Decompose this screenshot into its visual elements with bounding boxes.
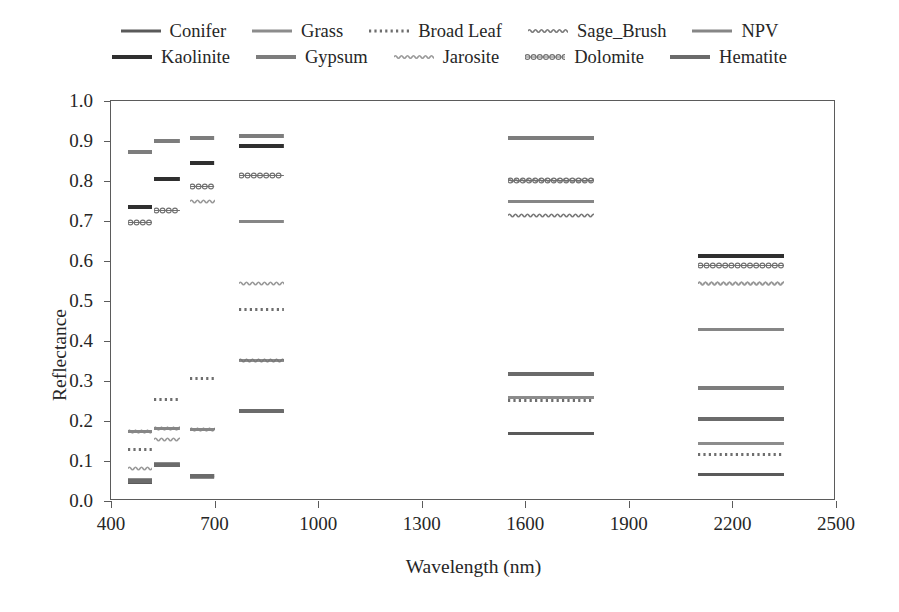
data-segment (239, 407, 284, 415)
data-segment (239, 142, 284, 150)
legend-item-broad-leaf[interactable]: Broad Leaf (369, 22, 502, 40)
data-segment (190, 472, 214, 480)
y-axis-tick-label: 0.3 (33, 370, 93, 392)
legend-label: NPV (741, 22, 778, 40)
legend-swatch-icon (369, 24, 409, 38)
y-axis-tick-label: 0.0 (33, 490, 93, 512)
legend-item-jarosite[interactable]: Jarosite (394, 48, 500, 66)
y-axis-tick-label: 0.6 (33, 250, 93, 272)
data-segment (508, 212, 594, 219)
y-axis-tick (104, 101, 111, 102)
x-axis-tick-label: 2200 (692, 513, 772, 535)
data-segment (508, 430, 594, 437)
y-axis-tick (104, 421, 111, 422)
legend-item-dolomite[interactable]: Dolomite (525, 48, 644, 66)
data-segment (698, 440, 784, 447)
legend-item-hematite[interactable]: Hematite (670, 48, 787, 66)
y-axis-tick-label: 0.7 (33, 210, 93, 232)
legend-item-conifer[interactable]: Conifer (121, 22, 227, 40)
legend-label: Dolomite (574, 48, 644, 66)
data-segment (154, 207, 180, 214)
data-segment (128, 219, 152, 226)
y-axis-tick (104, 221, 111, 222)
data-segment (508, 397, 594, 404)
legend-swatch-icon (256, 50, 296, 64)
plot-area: Reflectance Wavelength (nm) 0.00.10.20.3… (110, 100, 835, 500)
x-axis-title: Wavelength (nm) (111, 556, 836, 578)
y-axis-tick (104, 381, 111, 382)
y-axis-tick-label: 0.4 (33, 330, 93, 352)
data-segment (190, 159, 214, 167)
data-segment (128, 203, 152, 211)
data-segment (698, 252, 784, 260)
x-axis-tick (422, 501, 423, 508)
y-axis-tick-label: 0.5 (33, 290, 93, 312)
y-axis-tick-label: 0.1 (33, 450, 93, 472)
data-segment (128, 148, 152, 156)
data-segment (190, 198, 214, 205)
data-segment (154, 175, 180, 183)
data-segment (698, 415, 784, 423)
data-segment (239, 280, 284, 287)
x-axis-tick (111, 501, 112, 508)
data-segment (190, 426, 214, 433)
data-segment (128, 477, 152, 485)
legend-label: Grass (301, 22, 343, 40)
data-segment (508, 370, 594, 378)
legend-swatch-icon (525, 50, 565, 64)
legend-swatch-icon (528, 24, 568, 38)
y-axis-tick (104, 461, 111, 462)
legend-swatch-icon (692, 24, 732, 38)
legend-item-npv[interactable]: NPV (692, 22, 778, 40)
legend-label: Kaolinite (161, 48, 230, 66)
y-axis-tick-label: 0.8 (33, 170, 93, 192)
data-segment (154, 137, 180, 145)
y-axis-tick-label: 0.9 (33, 130, 93, 152)
legend-row-2: KaoliniteGypsumJarositeDolomiteHematite (99, 48, 800, 66)
data-segment (508, 198, 594, 205)
y-axis-tick-label: 1.0 (33, 90, 93, 112)
data-segment (239, 172, 284, 179)
x-axis-tick (629, 501, 630, 508)
legend-label: Gypsum (305, 48, 368, 66)
legend-item-grass[interactable]: Grass (252, 22, 343, 40)
legend-swatch-icon (121, 24, 161, 38)
data-segment (698, 280, 784, 287)
y-axis-tick (104, 301, 111, 302)
y-axis-tick-label: 0.2 (33, 410, 93, 432)
y-axis-tick (104, 261, 111, 262)
legend-label: Sage_Brush (577, 22, 666, 40)
legend-label: Broad Leaf (418, 22, 502, 40)
x-axis-tick (318, 501, 319, 508)
data-segment (154, 461, 180, 469)
data-segment (698, 326, 784, 333)
spectral-reflectance-figure: ConiferGrassBroad LeafSage_BrushNPVKaoli… (0, 0, 899, 612)
data-segment (698, 384, 784, 392)
data-segment (239, 306, 284, 313)
legend-item-kaolinite[interactable]: Kaolinite (112, 48, 230, 66)
legend-label: Hematite (719, 48, 787, 66)
legend-label: Jarosite (443, 48, 500, 66)
x-axis-tick-label: 1000 (278, 513, 358, 535)
legend-swatch-icon (112, 50, 152, 64)
plot-data-layer (111, 101, 834, 499)
data-segment (239, 218, 284, 225)
data-segment (128, 465, 152, 472)
legend-item-gypsum[interactable]: Gypsum (256, 48, 368, 66)
data-segment (239, 132, 284, 140)
data-segment (698, 262, 784, 269)
x-axis-tick (732, 501, 733, 508)
data-segment (190, 375, 214, 382)
data-segment (508, 134, 594, 142)
legend-swatch-icon (252, 24, 292, 38)
legend-item-sage-brush[interactable]: Sage_Brush (528, 22, 666, 40)
legend-row-1: ConiferGrassBroad LeafSage_BrushNPV (108, 22, 792, 40)
x-axis-tick-label: 700 (175, 513, 255, 535)
y-axis-tick (104, 501, 111, 502)
x-axis-tick (836, 501, 837, 508)
y-axis-tick (104, 141, 111, 142)
data-segment (698, 471, 784, 478)
x-axis-tick (525, 501, 526, 508)
x-axis-tick-label: 1900 (589, 513, 669, 535)
data-segment (239, 357, 284, 364)
